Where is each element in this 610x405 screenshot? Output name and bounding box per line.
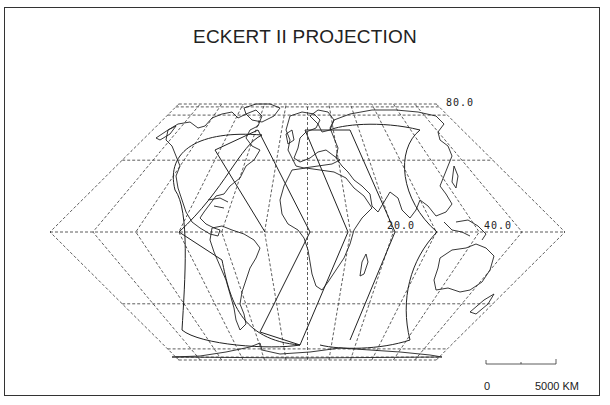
scale-end-label: 5000 KM <box>535 380 579 392</box>
scale-start-label: 0 <box>484 380 490 392</box>
scale-bar <box>0 0 610 405</box>
